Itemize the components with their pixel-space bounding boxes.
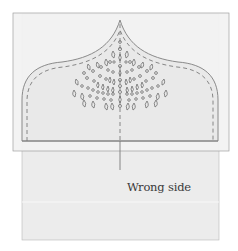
diagram-canvas (0, 0, 238, 251)
wrong-side-label: Wrong side (127, 180, 191, 194)
